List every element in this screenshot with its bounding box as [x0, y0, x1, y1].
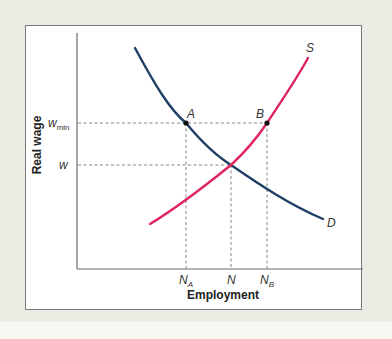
y-axis-title: Real wage [30, 115, 44, 174]
demand-curve [135, 48, 323, 219]
n-tick-label: N [227, 273, 236, 287]
w-tick-label: w [59, 158, 69, 172]
labor-market-diagram: A B S D wmin w NA N NB Employment Real w… [0, 0, 392, 339]
x-axis-title: Employment [187, 288, 259, 302]
curve-s-label: S [306, 41, 314, 55]
point-b-marker [264, 120, 269, 125]
point-b-label: B [256, 107, 264, 121]
wmin-tick-label: wmin [48, 116, 70, 132]
nb-main: N [260, 273, 269, 287]
curve-d-label: D [327, 216, 336, 230]
na-tick-label: NA [179, 273, 193, 289]
na-main: N [179, 273, 188, 287]
nb-sub: B [269, 280, 275, 289]
nb-tick-label: NB [260, 273, 275, 289]
point-a-marker [183, 120, 188, 125]
wmin-sub: min [57, 123, 70, 132]
point-a-label: A [186, 107, 195, 121]
guide-lines [78, 123, 267, 269]
